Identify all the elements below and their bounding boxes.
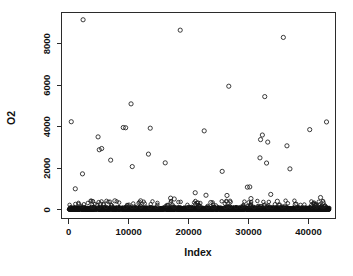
data-point [284,199,288,203]
x-tick-label: 10000 [115,226,141,237]
x-tick-label: 0 [66,226,71,237]
data-point [146,152,150,156]
x-tick-label: 40000 [295,226,321,237]
data-point [73,187,77,191]
data-point [288,167,292,171]
dense-point-band [67,199,331,211]
plot-canvas: 02000400060008000 010000200003000040000 … [0,0,353,276]
y-tick-label: 4000 [42,116,53,137]
data-point [130,164,134,168]
data-point [80,172,84,176]
data-point [243,200,247,204]
data-point [129,102,133,106]
data-point [256,199,260,203]
y-tick-label: 6000 [42,75,53,96]
data-point [267,200,271,204]
data-point [69,120,73,124]
x-tick-label: 30000 [235,226,261,237]
x-axis: 010000200003000040000 [66,219,322,237]
data-point [193,191,197,195]
data-point [258,137,262,141]
y-tick-label: 2000 [42,158,53,179]
y-axis-title: O2 [5,111,17,125]
data-point [303,203,307,207]
data-point [285,144,289,148]
data-point [269,192,273,196]
data-point [266,140,270,144]
data-point [148,126,152,130]
data-point [178,28,182,32]
data-point [202,129,206,133]
x-axis-title: Index [184,246,212,258]
data-point [264,161,268,165]
data-point [225,193,229,197]
data-point [220,169,224,173]
data-point [308,128,312,132]
data-point [96,135,100,139]
plot-frame-box [62,13,336,219]
data-point [163,161,167,165]
x-tick-label: 20000 [175,226,201,237]
y-tick-label: 0 [42,207,53,212]
data-point [227,84,231,88]
y-axis: 02000400060008000 [42,33,62,212]
data-point [281,35,285,39]
data-point [81,18,85,22]
scatter-plot-figure: 02000400060008000 010000200003000040000 … [0,0,353,276]
data-point [220,200,224,204]
data-point [177,200,181,204]
data-point [260,133,264,137]
outlier-points [69,18,328,207]
data-point [204,193,208,197]
data-point [109,158,113,162]
data-point [263,95,267,99]
data-point [324,120,328,124]
data-point [275,199,279,203]
data-point [258,156,262,160]
data-point [318,195,322,199]
y-tick-label: 8000 [42,33,53,54]
